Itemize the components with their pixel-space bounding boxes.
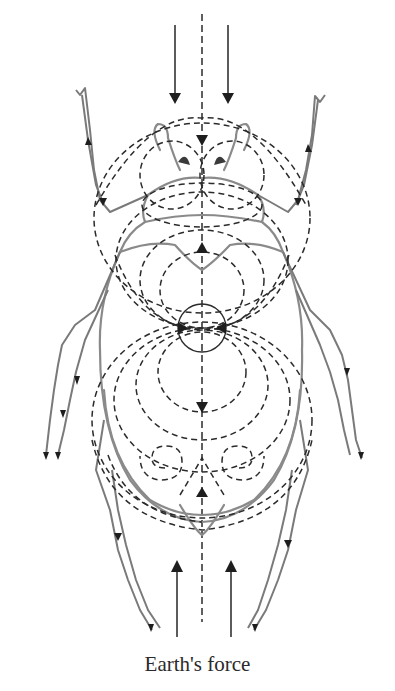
bottom-arrows [171,560,237,637]
beetle-field-diagram [0,0,395,691]
figure-caption: Earth's force [0,652,395,677]
